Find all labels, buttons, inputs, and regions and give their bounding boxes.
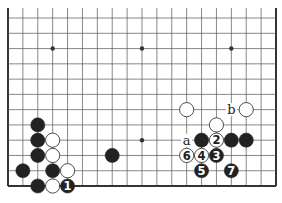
- stone-body: [31, 179, 45, 193]
- stone-body: [16, 164, 30, 178]
- white-stone: [46, 179, 60, 193]
- stone-body: [31, 118, 45, 132]
- move-number: 3: [212, 149, 220, 163]
- white-stone-4: 4: [194, 148, 208, 162]
- black-stone: [46, 164, 60, 178]
- black-stone-3: 3: [209, 148, 223, 162]
- black-stone-7: 7: [224, 164, 238, 178]
- point-label-b: b: [227, 102, 235, 117]
- white-stone: [46, 148, 60, 162]
- stone-body: [46, 179, 60, 193]
- black-stone: [194, 133, 208, 147]
- stone-body: [46, 148, 60, 162]
- stone-body: [224, 133, 238, 147]
- star-point: [50, 46, 54, 50]
- stones: 1264357: [16, 103, 254, 194]
- stone-body: [209, 118, 223, 132]
- white-stone: [46, 133, 60, 147]
- move-number: 7: [227, 164, 235, 178]
- stone-body: [60, 164, 74, 178]
- white-stone-2: 2: [209, 133, 223, 147]
- stone-body: [46, 164, 60, 178]
- move-number: 4: [198, 149, 206, 163]
- white-stone: [60, 164, 74, 178]
- black-stone: [16, 164, 30, 178]
- white-stone: [239, 103, 253, 117]
- stone-body: [239, 103, 253, 117]
- black-stone: [239, 133, 253, 147]
- stone-body: [105, 148, 119, 162]
- stone-body: [46, 133, 60, 147]
- white-stone: [209, 118, 223, 132]
- point-label-a: a: [183, 133, 191, 148]
- black-stone-1: 1: [60, 179, 74, 193]
- stone-body: [31, 148, 45, 162]
- black-stone-5: 5: [194, 164, 208, 178]
- black-stone: [31, 133, 45, 147]
- star-point: [140, 46, 144, 50]
- white-stone-6: 6: [180, 148, 194, 162]
- black-stone: [31, 148, 45, 162]
- move-number: 6: [183, 149, 191, 163]
- black-stone: [224, 133, 238, 147]
- move-number: 5: [198, 164, 206, 178]
- star-point: [140, 138, 144, 142]
- black-stone: [105, 148, 119, 162]
- stone-body: [239, 133, 253, 147]
- stone-body: [180, 103, 194, 117]
- go-board-diagram: ab 1264357: [0, 0, 282, 203]
- stone-body: [31, 133, 45, 147]
- stone-body: [194, 133, 208, 147]
- white-stone: [180, 103, 194, 117]
- black-stone: [31, 179, 45, 193]
- star-point: [229, 46, 233, 50]
- move-number: 2: [212, 133, 220, 147]
- move-number: 1: [64, 179, 72, 193]
- black-stone: [31, 118, 45, 132]
